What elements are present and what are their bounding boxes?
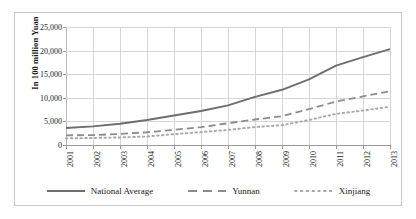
x-tick-label: 2007	[228, 151, 237, 167]
y-tick-label: 0	[6, 141, 62, 150]
chart-legend: National AverageYunnanXinjiang	[20, 186, 396, 196]
plot-area: 25,00020,00015,00010,0005,00002001200220…	[66, 27, 390, 145]
legend-item[interactable]: Yunnan	[187, 186, 260, 196]
x-tick-mark	[390, 145, 391, 149]
x-tick-mark	[147, 145, 148, 149]
x-tick-mark	[255, 145, 256, 149]
series-line	[66, 91, 390, 135]
legend-item[interactable]: Xinjiang	[294, 186, 371, 196]
x-tick-label: 2006	[201, 151, 210, 167]
x-tick-mark	[309, 145, 310, 149]
x-tick-mark	[93, 145, 94, 149]
x-tick-label: 2011	[336, 151, 345, 167]
x-tick-label: 2013	[390, 151, 399, 167]
chart-figure: In 100 million Yuan 25,00020,00015,00010…	[0, 0, 416, 219]
y-tick-label: 20,000	[6, 46, 62, 55]
x-tick-mark	[174, 145, 175, 149]
legend-item[interactable]: National Average	[46, 186, 154, 196]
x-tick-mark	[228, 145, 229, 149]
x-tick-label: 2004	[147, 151, 156, 167]
x-tick-label: 2009	[282, 151, 291, 167]
x-tick-mark	[282, 145, 283, 149]
x-tick-label: 2008	[255, 151, 264, 167]
x-tick-mark	[201, 145, 202, 149]
legend-label: Xinjiang	[339, 186, 371, 196]
x-tick-mark	[120, 145, 121, 149]
series-lines	[66, 27, 390, 145]
x-tick-mark	[66, 145, 67, 149]
x-tick-label: 2001	[66, 151, 75, 167]
y-tick-label: 15,000	[6, 70, 62, 79]
x-tick-label: 2002	[93, 151, 102, 167]
x-tick-mark	[363, 145, 364, 149]
legend-label: Yunnan	[232, 186, 260, 196]
x-tick-mark	[336, 145, 337, 149]
legend-line-icon	[46, 187, 86, 195]
x-tick-label: 2012	[363, 151, 372, 167]
legend-label: National Average	[91, 186, 154, 196]
x-tick-label: 2005	[174, 151, 183, 167]
gridline-vertical	[390, 27, 391, 145]
x-tick-label: 2003	[120, 151, 129, 167]
series-line	[66, 49, 390, 128]
y-tick-label: 10,000	[6, 93, 62, 102]
x-tick-label: 2010	[309, 151, 318, 167]
legend-line-icon	[187, 187, 227, 195]
legend-line-icon	[294, 187, 334, 195]
y-tick-label: 25,000	[6, 23, 62, 32]
y-tick-label: 5,000	[6, 117, 62, 126]
